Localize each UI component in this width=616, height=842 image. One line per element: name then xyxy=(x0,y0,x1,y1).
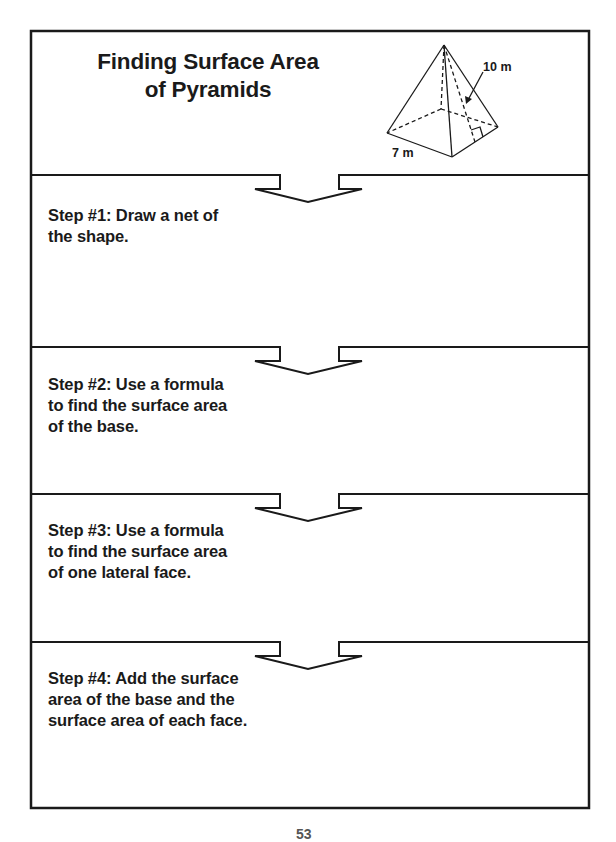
step-3-line-2: to find the surface area xyxy=(48,541,227,562)
step-2-text: Step #2: Use a formula to find the surfa… xyxy=(48,374,227,437)
step-3-line-3: of one lateral face. xyxy=(48,562,227,583)
divider-arrow-4 xyxy=(31,642,589,669)
pyramid-figure xyxy=(387,45,498,157)
step-2-line-3: of the base. xyxy=(48,416,227,437)
slant-height-label: 10 m xyxy=(483,60,512,74)
step-4-text: Step #4: Add the surface area of the bas… xyxy=(48,668,247,731)
step-1-text: Step #1: Draw a net of the shape. xyxy=(48,205,218,247)
step-3-line-1: Step #3: Use a formula xyxy=(48,520,227,541)
step-4-line-3: surface area of each face. xyxy=(48,710,247,731)
title-line-1: Finding Surface Area xyxy=(70,48,346,76)
step-4-line-1: Step #4: Add the surface xyxy=(48,668,247,689)
divider-arrow-1 xyxy=(31,175,589,202)
step-2-line-2: to find the surface area xyxy=(48,395,227,416)
page-number: 53 xyxy=(296,826,312,842)
step-2-line-1: Step #2: Use a formula xyxy=(48,374,227,395)
divider-arrow-3 xyxy=(31,494,589,521)
step-4-line-2: area of the base and the xyxy=(48,689,247,710)
base-edge-label: 7 m xyxy=(392,146,414,160)
step-1-line-2: the shape. xyxy=(48,226,218,247)
divider-arrow-2 xyxy=(31,347,589,374)
step-1-line-1: Step #1: Draw a net of xyxy=(48,205,218,226)
page-title: Finding Surface Area of Pyramids xyxy=(70,48,346,104)
title-line-2: of Pyramids xyxy=(70,76,346,104)
step-3-text: Step #3: Use a formula to find the surfa… xyxy=(48,520,227,583)
